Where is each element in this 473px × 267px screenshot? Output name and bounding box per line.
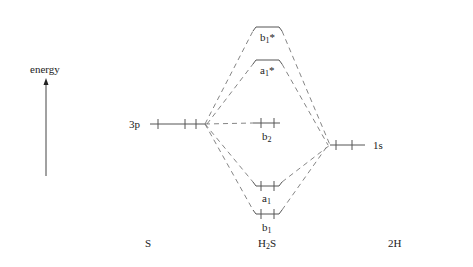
mo-a1-star-label: a1* <box>260 65 274 78</box>
mo-b1-star-label: b1* <box>260 32 275 45</box>
mo-diagram-canvas <box>0 0 473 267</box>
s-3p-label: 3p <box>129 119 140 130</box>
mo-a1-level <box>253 181 282 191</box>
mo-a1-label: a1 <box>262 193 271 206</box>
energy-axis-label: energy <box>30 64 60 75</box>
mo-b2-level <box>253 118 280 128</box>
mo-b1-label: b1 <box>262 222 272 235</box>
mo-b1-star-level <box>253 27 282 31</box>
mo-b2-label: b2 <box>262 131 272 144</box>
mo-b1-level <box>253 209 282 219</box>
h-1s-label: 1s <box>373 140 383 151</box>
mo-a1-star-level <box>253 60 282 64</box>
s-3p-level <box>150 119 205 129</box>
column-label-2h: 2H <box>388 238 401 249</box>
column-label-h2s: H2S <box>258 238 276 251</box>
h-1s-level <box>330 140 365 150</box>
correlation-lines <box>205 31 330 210</box>
energy-arrow-icon <box>44 78 49 176</box>
column-label-sulfur: S <box>145 238 151 249</box>
